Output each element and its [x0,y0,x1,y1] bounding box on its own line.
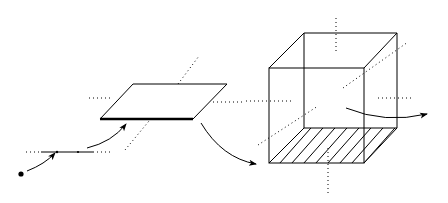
cube-axis-dotted-diag-lower [258,106,318,145]
plane-parallelogram [100,84,227,119]
line-element [26,151,111,153]
cube-element [246,18,414,196]
line-to-plane-arrow [87,124,126,148]
line-midpoint-mark [77,151,79,153]
point-element [18,171,23,176]
cube-edge-top-right [364,33,397,68]
cube-out-arrow [346,108,427,118]
plane-axis-dotted-lower [125,121,149,150]
point-to-line-arrow [27,153,55,171]
cube-axis-dotted-diag-upper [343,42,408,88]
cube-edge-top-left [269,33,304,68]
dimension-diagram [0,0,448,203]
point-dot [18,171,23,176]
line-endpoint-mark [56,151,58,153]
cube-edge-bottom-left [269,128,304,163]
cube-edge-bottom-right [364,128,397,163]
plane-element [89,56,244,150]
plane-to-cube-arrow [201,123,256,164]
plane-axis-dotted-upper [178,56,199,84]
